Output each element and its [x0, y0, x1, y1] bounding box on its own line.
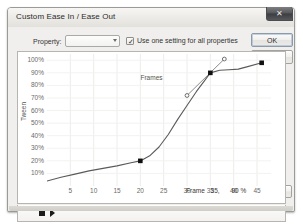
- y-axis-tick-label: 30%: [31, 144, 44, 151]
- title-bar[interactable]: Custom Ease In / Ease Out ✕: [8, 8, 294, 28]
- x-axis-tick-label: 20: [137, 187, 144, 194]
- frame-readout-frame: 35,: [211, 187, 220, 194]
- y-axis-tick-label: 50%: [31, 119, 44, 126]
- x-axis-tick-label: 25: [160, 187, 167, 194]
- dialog-window: Custom Ease In / Ease Out ✕ Property: ✓ …: [7, 7, 295, 212]
- property-label: Property:: [33, 38, 61, 45]
- use-one-setting-label: Use one setting for all properties: [137, 37, 238, 44]
- close-glyph: ✕: [267, 8, 292, 19]
- x-axis-tick-label: 45: [253, 187, 260, 194]
- dialog-body: Property: ✓ Use one setting for all prop…: [8, 27, 294, 211]
- property-select[interactable]: [65, 35, 120, 47]
- y-axis-title: Tween: [20, 95, 27, 129]
- easing-curve-editor[interactable]: 10%20%30%40%50%60%70%80%90%100% Tween 51…: [17, 51, 286, 204]
- keyframe-point[interactable]: [138, 159, 143, 164]
- y-axis-tick-label: 40%: [31, 132, 44, 139]
- x-axis-tick-label: 5: [69, 187, 73, 194]
- tangent-handle-point: [222, 57, 226, 61]
- x-axis-title: Frames: [18, 74, 285, 81]
- tangent-handle-point: [185, 94, 189, 98]
- chevron-down-icon: [113, 39, 117, 42]
- y-axis-tick-label: 80%: [31, 81, 44, 88]
- x-axis-tick-label: 10: [90, 187, 97, 194]
- dialog-title: Custom Ease In / Ease Out: [16, 12, 115, 21]
- y-axis-tick-label: 70%: [31, 94, 44, 101]
- y-axis-tick-label: 10%: [31, 169, 44, 176]
- use-one-setting-checkbox[interactable]: ✓: [126, 37, 134, 45]
- y-axis-tick-label: 20%: [31, 157, 44, 164]
- frame-readout: Frame 35, 90 %: [186, 187, 246, 194]
- frame-readout-label: Frame: [186, 187, 205, 194]
- y-axis-tick-label: 100%: [27, 56, 44, 63]
- keyframe-point[interactable]: [259, 61, 264, 66]
- ok-button[interactable]: OK: [251, 33, 293, 47]
- frame-readout-percent: 90 %: [231, 187, 246, 194]
- screenshot-root: Custom Ease In / Ease Out ✕ Property: ✓ …: [0, 0, 303, 224]
- bottom-strip: [9, 206, 293, 211]
- x-axis-tick-label: 15: [113, 187, 120, 194]
- close-icon[interactable]: ✕: [266, 7, 293, 21]
- y-axis-tick-label: 60%: [31, 107, 44, 114]
- check-icon: ✓: [128, 37, 134, 46]
